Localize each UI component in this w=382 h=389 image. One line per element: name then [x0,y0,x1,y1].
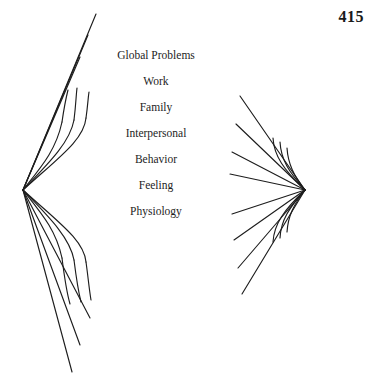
right-arc-inner [287,148,305,190]
label-feeling: Feeling [92,172,220,198]
book-page: 415 [0,0,382,389]
label-global-problems: Global Problems [92,42,220,68]
label-work: Work [92,68,220,94]
hierarchy-label-list: Global Problems Work Family Interpersona… [92,42,220,224]
right-fan-rays [230,96,305,294]
label-interpersonal: Interpersonal [92,120,220,146]
right-ray-down-2 [234,190,305,240]
label-family: Family [92,94,220,120]
label-behavior: Behavior [92,146,220,172]
right-fan-arcs [273,138,305,242]
right-ray-up-3 [232,152,305,190]
label-physiology: Physiology [92,198,220,224]
